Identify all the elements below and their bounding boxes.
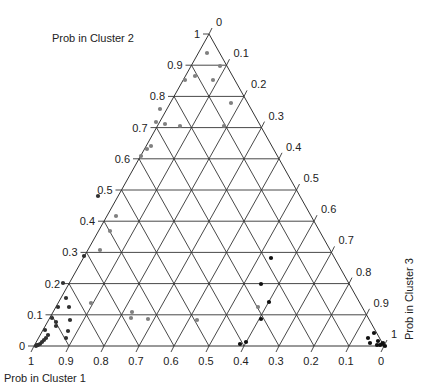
data-point-cluster-2-assigned [256,305,260,309]
data-point-cluster-1-assigned [54,320,58,324]
axis-title-cluster-3: Prob in Cluster 3 [403,258,415,340]
data-point-cluster-2-assigned [205,51,209,55]
tick-label-cluster-3: 0.7 [339,234,354,246]
data-point-cluster-1-assigned [67,305,71,309]
data-point-cluster-1-assigned [50,316,54,320]
data-point-cluster-2-assigned [195,318,199,322]
data-point-cluster-2-assigned [146,317,150,321]
data-point-cluster-1-assigned [43,328,47,332]
tick-label-cluster-2: 0.1 [27,309,42,321]
tick-cluster-1 [136,346,139,352]
tick-label-cluster-2: 0.9 [167,59,182,71]
data-point-cluster-3-assigned [376,339,380,343]
tick-label-cluster-3: 0.9 [374,297,389,309]
tick-label-cluster-1: 0.2 [303,355,318,367]
data-point-cluster-2-assigned [139,154,143,158]
tick-cluster-3 [279,153,282,159]
tick-cluster-1 [276,346,279,352]
data-point-cluster-1-assigned [64,296,68,300]
data-point-cluster-1-assigned [61,281,65,285]
data-point-cluster-2-assigned [193,74,197,78]
data-point-cluster-2-assigned [145,147,149,151]
data-point-cluster-1-assigned [68,318,72,322]
tick-label-cluster-3: 0.5 [304,172,319,184]
data-point-cluster-3-assigned [259,317,263,321]
tick-label-cluster-1: 0.4 [233,355,248,367]
tick-cluster-3 [244,90,247,96]
tick-cluster-1 [311,346,314,352]
data-points [34,51,387,348]
data-point-cluster-2-assigned [222,124,226,128]
data-point-cluster-3-assigned [381,341,385,345]
data-point-cluster-1-assigned [66,329,70,333]
data-point-cluster-1-assigned [96,194,100,198]
data-point-cluster-2-assigned [108,229,112,233]
gridline-cluster-3 [139,128,262,346]
gridline-cluster-1 [87,252,140,346]
tick-label-cluster-1: 0.1 [338,355,353,367]
tick-cluster-3 [314,215,317,221]
tick-cluster-1 [171,346,174,352]
tick-label-cluster-1: 0.3 [268,355,283,367]
data-point-cluster-3-assigned [366,336,370,340]
data-point-cluster-1-assigned [35,343,39,347]
data-point-cluster-2-assigned [130,310,134,314]
tick-label-cluster-3: 0.8 [356,266,371,278]
data-point-cluster-3-assigned [368,341,372,345]
tick-cluster-3 [297,184,300,190]
tick-label-cluster-1: 0.9 [58,355,73,367]
tick-cluster-1 [66,346,69,352]
tick-label-cluster-2: 0.5 [97,184,112,196]
data-point-cluster-2-assigned [129,316,133,320]
tick-cluster-3 [262,122,265,128]
ternary-plot: 0100.10.90.10.20.80.20.30.70.30.40.60.40… [0,0,426,392]
data-point-cluster-3-assigned [372,331,376,335]
tick-cluster-3 [332,246,335,252]
gridline-cluster-3 [279,252,332,346]
tick-label-cluster-1: 0.5 [198,355,213,367]
tick-label-cluster-1: 0.6 [163,355,178,367]
data-point-cluster-2-assigned [89,301,93,305]
data-point-cluster-2-assigned [98,248,102,252]
tick-cluster-3 [349,278,352,284]
data-point-cluster-2-assigned [178,124,182,128]
tick-label-cluster-1: 0 [378,355,384,367]
data-point-cluster-1-assigned [64,336,68,340]
data-point-cluster-2-assigned [163,122,167,126]
tick-cluster-3 [209,28,212,34]
tick-label-cluster-2: 0.8 [150,90,165,102]
tick-label-cluster-2: 0.2 [45,278,60,290]
tick-label-cluster-1: 0.7 [128,355,143,367]
axis-title-cluster-2: Prob in Cluster 2 [52,32,134,44]
tick-label-cluster-2: 1 [194,28,200,40]
tick-cluster-1 [31,346,34,352]
tick-label-cluster-3: 0.1 [234,47,249,59]
data-point-cluster-1-assigned [54,324,58,328]
data-point-cluster-2-assigned [218,64,222,68]
gridline-cluster-3 [349,315,367,346]
tick-label-cluster-3: 0.2 [251,78,266,90]
data-point-cluster-2-assigned [183,78,187,82]
data-point-cluster-2-assigned [149,144,153,148]
data-point-cluster-3-assigned [244,340,248,344]
data-point-cluster-3-assigned [259,282,263,286]
tick-label-cluster-2: 0.4 [80,215,95,227]
tick-label-cluster-2: 0.6 [115,153,130,165]
tick-label-cluster-3: 0 [216,16,222,28]
tick-label-cluster-3: 1 [391,328,397,340]
tick-cluster-1 [206,346,209,352]
data-point-cluster-3-assigned [269,256,273,260]
tick-label-cluster-3: 0.6 [321,203,336,215]
tick-label-cluster-3: 0.4 [286,141,301,153]
tick-label-cluster-3: 0.3 [269,110,284,122]
data-point-cluster-2-assigned [154,120,158,124]
tick-cluster-1 [241,346,244,352]
data-point-cluster-2-assigned [114,214,118,218]
tick-label-cluster-1: 0.8 [93,355,108,367]
data-point-cluster-3-assigned [238,342,242,346]
tick-label-cluster-1: 1 [28,355,34,367]
tick-cluster-1 [101,346,104,352]
tick-label-cluster-2: 0 [19,340,25,352]
data-point-cluster-2-assigned [158,107,162,111]
data-point-cluster-1-assigned [56,305,60,309]
